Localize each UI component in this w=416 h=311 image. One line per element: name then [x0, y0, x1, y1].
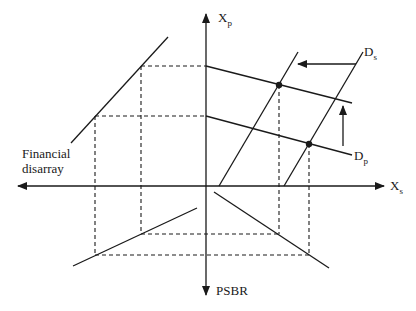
x-positive-label: Xs	[390, 178, 403, 196]
bottom-left-line	[73, 208, 197, 266]
y-positive-label: Xp	[218, 10, 232, 28]
bottom-right-line	[214, 192, 329, 268]
four-quadrant-diagram: Xp Xs Financial disarray PSBR Ds Dp	[0, 0, 416, 311]
financial-disarray-line	[71, 37, 168, 143]
x-negative-label-line1: Financial	[22, 146, 71, 161]
dp-label: Dp	[354, 148, 368, 166]
ds-label: Ds	[364, 44, 377, 62]
right-supply-line	[284, 52, 363, 186]
y-negative-label: PSBR	[216, 283, 248, 298]
x-negative-label-line2: disarray	[22, 161, 64, 176]
